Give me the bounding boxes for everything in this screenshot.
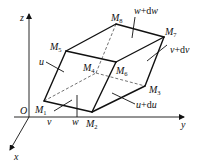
leader-v-dv (147, 45, 167, 61)
face-label-u: u (39, 56, 44, 67)
edge-m4-m8 (96, 24, 116, 73)
edge-m3-m7 (145, 37, 164, 86)
face-label-w: w (72, 116, 79, 127)
z-axis-label: z (19, 12, 24, 23)
vertex-label-m2: M2 (85, 118, 98, 130)
vertex-label-m7: M7 (164, 26, 177, 38)
edge-m2-m6 (92, 62, 116, 112)
face-label-v-dv: v+dv (170, 44, 190, 55)
vertex-label-m4: M4 (82, 62, 95, 74)
x-axis (10, 117, 29, 150)
edge-m1-m5 (44, 51, 66, 101)
edge-m1-m4 (44, 73, 96, 101)
face-label-v: v (47, 116, 52, 127)
leader-v (54, 100, 72, 111)
face-label-w-dw: w+dw (134, 5, 158, 16)
leader-u-du (112, 93, 135, 104)
vertex-label-m5: M5 (49, 41, 62, 53)
vertex-label-m1: M1 (34, 104, 47, 116)
edge-m5-m8 (66, 24, 116, 51)
parallelepiped-diagram: z y x O M1 M2 M3 M4 M5 M6 M7 (0, 0, 203, 164)
leader-w-dw (132, 17, 135, 38)
origin-label: O (20, 105, 27, 116)
edge-m6-m7 (116, 37, 164, 62)
vertex-label-m6: M6 (115, 65, 128, 77)
vertex-label-m8: M8 (110, 12, 123, 24)
edge-m8-m7 (116, 24, 164, 37)
x-axis-label: x (13, 151, 19, 162)
leader-u (46, 62, 64, 72)
y-axis-label: y (180, 119, 186, 130)
edge-m5-m6 (66, 51, 116, 62)
vertex-label-m3: M3 (148, 84, 161, 96)
face-label-u-du: u+du (136, 99, 157, 110)
